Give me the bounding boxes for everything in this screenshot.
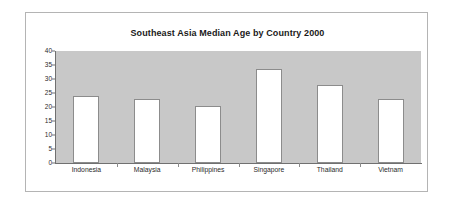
y-axis-tick-label: 5 bbox=[26, 146, 52, 153]
y-axis-tick-label: 10 bbox=[26, 132, 52, 139]
x-axis-tick-mark bbox=[178, 163, 179, 167]
y-axis-tick-mark bbox=[52, 93, 55, 94]
bar bbox=[195, 106, 221, 163]
y-axis-tick-mark bbox=[52, 65, 55, 66]
y-axis-tick-label: 15 bbox=[26, 118, 52, 125]
y-axis-tick-label: 0 bbox=[26, 160, 52, 167]
bar bbox=[134, 99, 160, 163]
chart-frame: Southeast Asia Median Age by Country 200… bbox=[25, 12, 428, 192]
y-axis-tick-label: 25 bbox=[26, 90, 52, 97]
x-axis-tick-mark bbox=[117, 163, 118, 167]
x-axis-category-label: Indonesia bbox=[56, 167, 117, 174]
y-axis-tick-label: 40 bbox=[26, 48, 52, 55]
y-axis-tick-mark bbox=[52, 79, 55, 80]
y-axis-tick-label: 35 bbox=[26, 62, 52, 69]
y-axis-tick-mark bbox=[52, 149, 55, 150]
bar bbox=[317, 85, 343, 163]
y-axis-tick-mark bbox=[52, 135, 55, 136]
x-axis-category-label: Vietnam bbox=[360, 167, 421, 174]
bar bbox=[378, 99, 404, 163]
y-axis-tick-mark bbox=[52, 121, 55, 122]
y-axis-tick-label: 30 bbox=[26, 76, 52, 83]
y-axis-tick-mark bbox=[52, 107, 55, 108]
x-axis-tick-mark bbox=[239, 163, 240, 167]
y-axis-line bbox=[55, 51, 56, 164]
x-axis-category-label: Malaysia bbox=[117, 167, 178, 174]
x-axis-tick-mark bbox=[299, 163, 300, 167]
chart-title: Southeast Asia Median Age by Country 200… bbox=[26, 28, 429, 38]
plot-area bbox=[56, 51, 421, 163]
bar bbox=[256, 69, 282, 163]
y-axis-tick-mark bbox=[52, 51, 55, 52]
bar bbox=[73, 96, 99, 163]
x-axis-category-label: Singapore bbox=[239, 167, 300, 174]
x-axis-category-label: Philippines bbox=[178, 167, 239, 174]
y-axis-tick-mark bbox=[52, 163, 55, 164]
x-axis-tick-mark bbox=[360, 163, 361, 167]
x-axis-category-label: Thailand bbox=[299, 167, 360, 174]
y-axis-tick-label: 20 bbox=[26, 104, 52, 111]
